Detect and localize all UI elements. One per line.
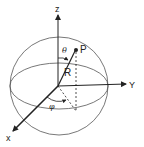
theta-label: θ	[62, 46, 67, 55]
phi-arc	[47, 97, 66, 101]
spherical-coordinates-diagram: z Y x P R θ φ	[0, 0, 144, 147]
point-p-marker	[74, 48, 78, 52]
y-axis	[58, 84, 126, 86]
radius-label: R	[64, 67, 71, 78]
x-axis-label: x	[6, 133, 11, 143]
y-axis-label: Y	[129, 80, 135, 90]
z-axis-label: z	[55, 4, 60, 14]
point-label: P	[80, 44, 87, 55]
phi-label: φ	[49, 102, 55, 111]
theta-arc	[58, 58, 68, 60]
projection-plane-dashed	[58, 86, 76, 111]
